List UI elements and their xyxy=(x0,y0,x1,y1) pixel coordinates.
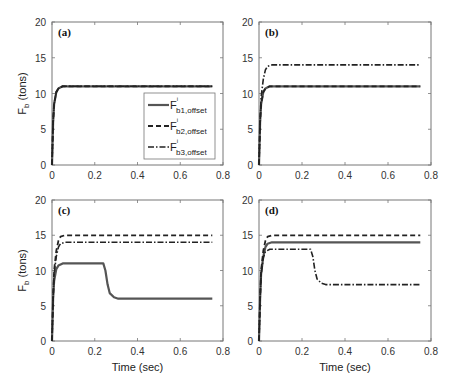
x-tick-label: 0.2 xyxy=(88,346,102,357)
subplot-d: 00.20.40.60.805101520(d)Time (sec) xyxy=(242,195,439,373)
y-tick-label: 15 xyxy=(242,53,254,64)
y-axis-label: Fb (tons) xyxy=(16,72,31,114)
y-tick-label: 0 xyxy=(40,336,46,347)
x-tick-label: 0.4 xyxy=(131,170,145,181)
x-tick-label: 0.6 xyxy=(173,346,187,357)
subplot-a: 00.20.40.60.805101520(a)Fb (tons)Fib1,of… xyxy=(16,17,230,181)
x-tick-label: 0 xyxy=(49,346,55,357)
x-tick-label: 0.8 xyxy=(424,170,438,181)
x-tick-label: 0.8 xyxy=(424,346,438,357)
y-tick-label: 15 xyxy=(242,230,254,241)
axes-box xyxy=(259,22,431,165)
subplot-b: 00.20.40.60.805101520(b) xyxy=(242,17,439,181)
x-tick-label: 0.6 xyxy=(173,170,187,181)
x-tick-label: 0.6 xyxy=(381,346,395,357)
y-tick-label: 10 xyxy=(242,89,254,100)
x-tick-label: 0.2 xyxy=(295,346,309,357)
subplot-c: 00.20.40.60.805101520(c)Fb (tons)Time (s… xyxy=(16,195,230,373)
y-tick-label: 5 xyxy=(40,301,46,312)
y-tick-label: 0 xyxy=(247,336,253,347)
x-tick-label: 0 xyxy=(256,170,262,181)
x-tick-label: 0.8 xyxy=(216,170,230,181)
panels: 00.20.40.60.805101520(a)Fb (tons)Fib1,of… xyxy=(16,17,438,373)
panel-label: (c) xyxy=(58,204,71,217)
y-tick-label: 5 xyxy=(40,124,46,135)
y-tick-label: 20 xyxy=(35,17,47,28)
figure: 00.20.40.60.805101520(a)Fb (tons)Fib1,of… xyxy=(0,0,454,390)
y-tick-label: 20 xyxy=(35,195,47,206)
y-tick-label: 0 xyxy=(247,160,253,171)
x-tick-label: 0.8 xyxy=(216,346,230,357)
x-tick-label: 0.6 xyxy=(381,170,395,181)
x-tick-label: 0.4 xyxy=(338,170,352,181)
x-tick-label: 0 xyxy=(49,170,55,181)
y-tick-label: 10 xyxy=(35,89,47,100)
y-tick-label: 20 xyxy=(242,17,254,28)
panel-label: (a) xyxy=(58,26,71,39)
x-axis-label: Time (sec) xyxy=(319,361,371,373)
x-axis-label: Time (sec) xyxy=(112,361,164,373)
y-tick-label: 15 xyxy=(35,53,47,64)
x-tick-label: 0 xyxy=(256,346,262,357)
axes-box xyxy=(52,200,223,341)
x-tick-label: 0.2 xyxy=(295,170,309,181)
axes-box xyxy=(259,200,431,341)
panel-label: (b) xyxy=(265,26,279,39)
x-tick-label: 0.2 xyxy=(88,170,102,181)
y-tick-label: 10 xyxy=(242,266,254,277)
x-tick-label: 0.4 xyxy=(131,346,145,357)
y-tick-label: 20 xyxy=(242,195,254,206)
y-tick-label: 5 xyxy=(247,124,253,135)
y-tick-label: 0 xyxy=(40,160,46,171)
y-tick-label: 5 xyxy=(247,301,253,312)
y-tick-label: 15 xyxy=(35,230,47,241)
x-tick-label: 0.4 xyxy=(338,346,352,357)
legend: Fib1,offsetFib2,offsetFib3,offset xyxy=(144,93,215,159)
y-axis-label: Fb (tons) xyxy=(16,249,31,291)
y-tick-label: 10 xyxy=(35,266,47,277)
panel-label: (d) xyxy=(265,204,279,217)
